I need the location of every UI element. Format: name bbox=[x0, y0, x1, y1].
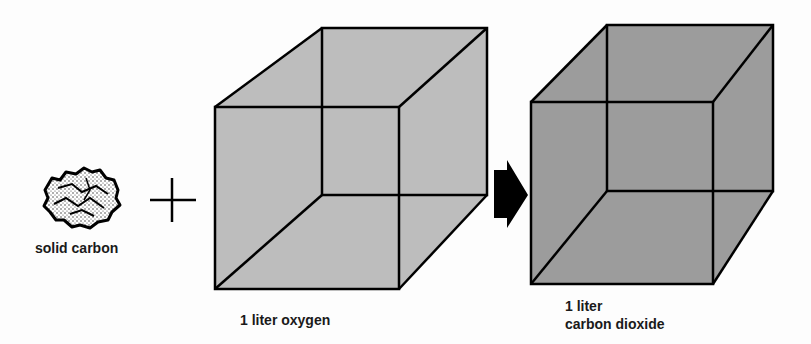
oxygen-cube bbox=[215, 28, 487, 289]
reaction-arrow-icon bbox=[494, 160, 528, 228]
diagram-canvas: solid carbon 1 liter oxygen 1 liter carb… bbox=[0, 0, 811, 344]
diagram-graphics bbox=[0, 0, 811, 344]
carbon-dioxide-label-line2: carbon dioxide bbox=[565, 316, 665, 333]
plus-sign-icon bbox=[150, 178, 196, 222]
oxygen-label: 1 liter oxygen bbox=[240, 312, 330, 329]
carbon-dioxide-cube bbox=[531, 25, 773, 284]
solid-carbon-label: solid carbon bbox=[35, 240, 118, 257]
carbon-lump-icon bbox=[44, 168, 120, 228]
carbon-dioxide-label-line1: 1 liter bbox=[565, 298, 602, 315]
